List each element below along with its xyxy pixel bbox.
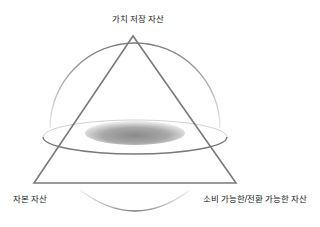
label-value-storage-asset: 가치 저장 자산 xyxy=(112,12,164,24)
sphere-lower-arc xyxy=(80,190,190,211)
label-capital-asset: 자본 자산 xyxy=(13,192,47,204)
label-consumable-convertible-asset: 소비 가능한/전환 가능한 자산 xyxy=(203,192,307,204)
sphere-upper-arc xyxy=(50,43,220,128)
core-shadow-ellipse xyxy=(85,121,185,145)
asset-triangle-diagram: 가치 저장 자산 자본 자산 소비 가능한/전환 가능한 자산 xyxy=(0,0,320,227)
triangle-outline xyxy=(34,36,236,183)
